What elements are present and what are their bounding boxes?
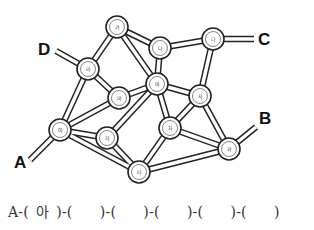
paren-open: (	[154, 204, 164, 220]
node-label: 다	[211, 36, 216, 43]
node-ta: 타	[128, 161, 150, 183]
paren-close: )	[52, 204, 62, 220]
node-label: 자	[105, 135, 110, 142]
paren-close: )	[226, 204, 236, 220]
node-cha: 차	[159, 117, 181, 139]
paren-close: )	[269, 204, 279, 220]
node-label: 바	[155, 81, 160, 88]
answer-blank-1[interactable]: 아	[34, 201, 52, 221]
node-ja: 자	[96, 127, 118, 149]
paren-open: (	[23, 204, 33, 220]
node-label: 마	[117, 95, 122, 102]
answer-start: A-	[8, 204, 23, 220]
node-ba: 바	[146, 73, 168, 95]
endpoint-label-B: B	[259, 109, 271, 128]
node-na: 나	[149, 37, 171, 59]
node-ga: 가	[106, 16, 128, 38]
endpoint-label-C: C	[258, 30, 270, 49]
node-da: 다	[202, 28, 224, 50]
node-ma: 마	[108, 87, 130, 109]
node-ka: 카	[218, 138, 240, 160]
node-label: 가	[115, 24, 120, 31]
paren-close: )	[182, 204, 192, 220]
paren-open: (	[241, 204, 251, 220]
node-ra: 라	[77, 58, 99, 80]
paren-open: (	[198, 204, 208, 220]
node-a: 아	[49, 119, 71, 141]
paren-open: (	[110, 204, 120, 220]
paren-close: )	[95, 204, 105, 220]
paren-open: (	[67, 204, 77, 220]
node-label: 나	[158, 45, 163, 52]
node-label: 차	[168, 125, 173, 132]
node-label: 라	[86, 66, 91, 73]
paren-close: )	[139, 204, 149, 220]
node-label: 사	[198, 93, 203, 100]
answer-sequence: A-( 아 )-( )-( )-( )-( )-( )	[8, 201, 280, 221]
endpoint-label-A: A	[14, 153, 26, 172]
node-sa: 사	[189, 85, 211, 107]
node-label: 카	[227, 146, 232, 153]
node-label: 아	[58, 127, 63, 134]
node-label: 타	[137, 169, 142, 176]
endpoint-label-D: D	[38, 40, 50, 59]
path-network-diagram: 가나다라마바사아자차타카 ABCD	[0, 0, 314, 200]
